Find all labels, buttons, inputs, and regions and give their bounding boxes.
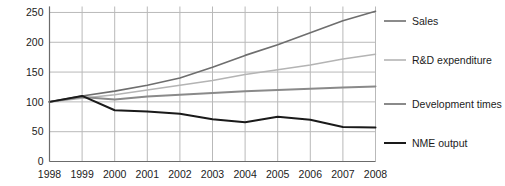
y-axis-tick-label: 250	[26, 6, 44, 18]
y-axis-tick-label: 0	[38, 155, 44, 167]
chart-canvas: 050100150200250 199819992000200120022003…	[0, 0, 505, 186]
x-axis-tick-label: 2004	[233, 168, 257, 180]
y-tick-label-layer: 050100150200250	[26, 6, 44, 167]
y-axis-tick-label: 50	[32, 125, 44, 137]
y-axis-tick-label: 200	[26, 36, 44, 48]
grid-layer	[50, 7, 376, 162]
legend-label-2: Development times	[412, 98, 502, 110]
x-axis-tick-label: 1998	[38, 168, 62, 180]
line-chart: 050100150200250 199819992000200120022003…	[0, 0, 505, 186]
x-axis-tick-label: 2003	[201, 168, 225, 180]
y-axis-tick-label: 100	[26, 96, 44, 108]
x-axis-tick-label: 2008	[364, 168, 388, 180]
x-axis-tick-label: 2002	[168, 168, 192, 180]
legend-layer: SalesR&D expenditureDevelopment timesNME…	[384, 15, 502, 149]
x-axis-tick-label: 2007	[331, 168, 355, 180]
x-axis-tick-label: 1999	[70, 168, 94, 180]
x-axis-tick-label: 2006	[299, 168, 323, 180]
x-axis-tick-label: 2000	[103, 168, 127, 180]
legend-label-0: Sales	[412, 15, 438, 27]
x-tick-label-layer: 1998199920002001200220032004200520062007…	[38, 168, 388, 180]
y-axis-tick-label: 150	[26, 66, 44, 78]
legend-label-3: NME output	[412, 137, 468, 149]
x-axis-tick-label: 2005	[266, 168, 290, 180]
x-axis-tick-label: 2001	[136, 168, 160, 180]
legend-label-1: R&D expenditure	[412, 54, 492, 66]
